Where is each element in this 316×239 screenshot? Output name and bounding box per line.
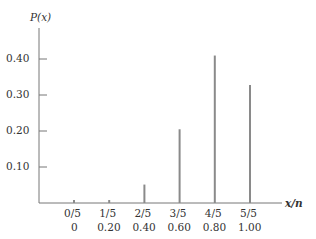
y-tick-label: 0.10: [6, 160, 29, 172]
x-tick-label-fraction: 4/5: [205, 207, 222, 219]
bar-chart: [0, 0, 316, 239]
x-tick-label-fraction: 3/5: [170, 207, 187, 219]
x-tick-label-fraction: 1/5: [99, 207, 116, 219]
x-tick-label-decimal: 0: [71, 221, 78, 233]
x-tick-label-fraction: 5/5: [240, 207, 257, 219]
x-tick-label-decimal: 0.80: [203, 221, 226, 233]
y-tick-label: 0.30: [6, 88, 29, 100]
x-axis-label: x/n: [285, 197, 303, 209]
x-tick-label-fraction: 2/5: [134, 207, 151, 219]
x-tick-label-decimal: 0.60: [168, 221, 191, 233]
x-tick-label-decimal: 0.40: [132, 221, 155, 233]
y-axis-label: P(x): [30, 11, 51, 23]
x-tick-label-decimal: 1.00: [238, 221, 261, 233]
y-tick-label: 0.40: [6, 52, 29, 64]
x-tick-label-fraction: 0/5: [64, 207, 81, 219]
y-tick-label: 0.20: [6, 124, 29, 136]
x-tick-label-decimal: 0.20: [97, 221, 120, 233]
